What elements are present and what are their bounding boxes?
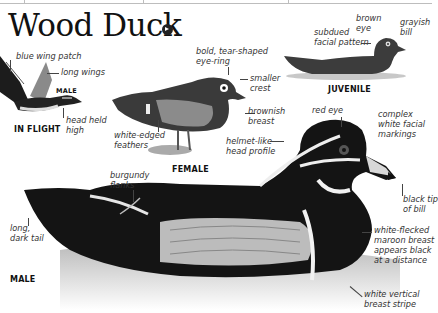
label-burgundy-2: flanks [110,181,135,191]
rule-tick [143,0,144,4]
page-top-rule [0,3,432,4]
leader-line [28,218,29,226]
flight-sex-label: MALE [56,87,77,95]
label-complex-3: markings [378,130,416,140]
page-title: Wood Duck [8,10,181,41]
leader-line [362,232,372,233]
label-eye-ring-2: eye-ring [196,57,230,67]
label-stripe-2: breast stripe [364,300,416,310]
leader-line [228,67,229,75]
leader-line [361,43,371,44]
label-smaller-crest-2: crest [250,84,270,94]
leader-line [10,60,11,72]
label-blue-wing-patch: blue wing patch [16,52,81,62]
rule-tick [24,0,25,4]
caption-juvenile: JUVENILE [328,85,371,94]
label-black-tip-2: of bill [403,205,426,215]
label-helmet-2: head profile [226,147,275,157]
caption-male: MALE [10,275,36,284]
label-red-eye: red eye [312,106,343,116]
leader-line [240,79,248,80]
label-grayish-bill-2: bill [400,28,412,38]
rule-tick [288,0,289,4]
leader-line [270,141,284,142]
label-brown-eye-2: eye [356,24,371,34]
male-duck-illustration [0,110,432,313]
leader-line [341,117,342,127]
leader-line [133,190,134,202]
leader-line [47,73,59,74]
label-tail-2: dark tail [10,234,44,244]
label-flecked-4: at a distance [374,256,427,266]
speaker-icon[interactable] [162,24,173,35]
label-long-wings: long wings [61,68,105,78]
